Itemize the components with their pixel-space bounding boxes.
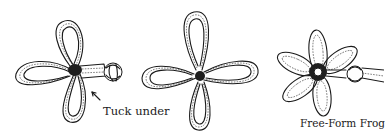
six-petal-flower-drawing — [274, 29, 384, 116]
free-form-frog-caption: Free-Form Frog — [300, 117, 385, 129]
tuck-under-caption: Tuck under — [103, 104, 170, 118]
